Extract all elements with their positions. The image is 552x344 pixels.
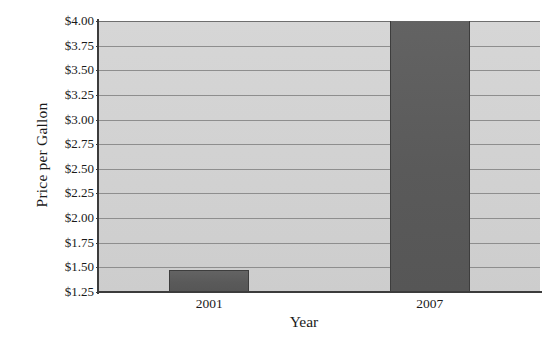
gridline [99, 193, 540, 194]
y-tick-label: $3.25 [32, 88, 94, 101]
gridline [99, 243, 540, 244]
y-tick-label: $2.50 [32, 162, 94, 175]
gridline [99, 267, 540, 268]
bar-2007 [390, 21, 470, 292]
bar-2001 [169, 270, 249, 292]
y-tick-label: $2.75 [32, 137, 94, 150]
gridline [99, 70, 540, 71]
y-tick-label: $3.50 [32, 63, 94, 76]
plot-area [99, 21, 540, 292]
y-tick-label: $1.75 [32, 236, 94, 249]
x-tick-label: 2007 [370, 296, 490, 312]
plot-background [99, 21, 540, 292]
gridline [99, 120, 540, 121]
bar-chart: Price per Gallon $4.00$3.75$3.50$3.25$3.… [0, 0, 552, 344]
x-axis-title: Year [0, 313, 552, 331]
y-axis-line [97, 19, 99, 294]
y-tick-label: $3.75 [32, 39, 94, 52]
x-tick-label: 2001 [149, 296, 269, 312]
gridline [99, 144, 540, 145]
gridline [99, 21, 540, 22]
y-tick-label: $3.00 [32, 113, 94, 126]
y-tick-label: $2.00 [32, 211, 94, 224]
y-tick-label: $1.50 [32, 260, 94, 273]
bar-fill [391, 21, 469, 291]
gridline [99, 169, 540, 170]
y-axis-ticks: $4.00$3.75$3.50$3.25$3.00$2.75$2.50$2.25… [32, 0, 94, 344]
y-tick-label: $2.25 [32, 186, 94, 199]
bar-fill [170, 271, 248, 291]
gridline [99, 46, 540, 47]
gridline [99, 218, 540, 219]
gridline [99, 95, 540, 96]
y-tick-label: $1.25 [32, 285, 94, 298]
x-axis-title-text: Year [290, 313, 319, 330]
y-tick-label: $4.00 [32, 14, 94, 27]
x-axis-line [97, 291, 542, 293]
